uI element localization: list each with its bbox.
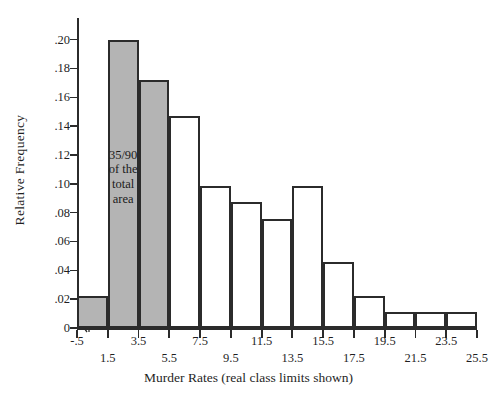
y-axis-title-text: Relative Frequency: [12, 115, 28, 226]
y-axis-tick: [70, 68, 77, 70]
x-axis-tick-label: 7.5: [192, 334, 208, 349]
y-axis-tick-label: .04: [54, 263, 70, 278]
y-axis-tick: [70, 39, 77, 41]
histogram-bar: [262, 219, 293, 328]
x-axis-title: Murder Rates (real class limits shown): [0, 370, 497, 386]
y-axis-tick: [70, 154, 77, 156]
histogram-bar: [446, 312, 477, 328]
y-axis-title: Relative Frequency: [8, 0, 32, 340]
histogram-bar: [139, 80, 170, 328]
y-axis-tick-label: .08: [54, 205, 70, 220]
histogram-bars: [77, 18, 477, 330]
x-axis-tick-label: 5.5: [161, 351, 177, 366]
x-axis-tick-label: 13.5: [281, 351, 303, 366]
y-axis-tick-label: .12: [54, 147, 70, 162]
y-axis-tick: [70, 97, 77, 99]
x-axis-tick-label: 19.5: [374, 334, 396, 349]
histogram-bar: [415, 312, 446, 328]
y-axis-tick: [70, 212, 77, 214]
histogram-bar: [231, 202, 262, 328]
histogram-bar: [200, 186, 231, 328]
x-axis-tick-label: 21.5: [405, 351, 427, 366]
histogram-bar: [385, 312, 416, 328]
y-axis-tick-label: .02: [54, 292, 70, 307]
histogram-bar: [77, 296, 108, 328]
y-axis-tick-label: .10: [54, 176, 70, 191]
x-axis-tick-labels: -.51.53.55.57.59.511.513.515.517.519.521…: [77, 330, 477, 374]
y-axis-tick-label: .20: [54, 32, 70, 47]
y-axis-tick: [70, 183, 77, 185]
x-axis-tick-label: 15.5: [312, 334, 334, 349]
histogram-bar: [169, 116, 200, 328]
histogram-bar: [354, 296, 385, 328]
x-axis-tick-label: 17.5: [343, 351, 365, 366]
y-axis-tick: [70, 270, 77, 272]
y-axis-tick: [70, 241, 77, 243]
y-axis-tick-label: .16: [54, 90, 70, 105]
y-axis-tick-label: .14: [54, 119, 70, 134]
histogram-bar: [108, 40, 139, 328]
x-axis-tick-label: -.5: [70, 334, 84, 349]
x-axis-tick-label: 9.5: [223, 351, 239, 366]
y-axis-tick-label: .06: [54, 234, 70, 249]
x-axis-tick-label: 3.5: [131, 334, 147, 349]
y-axis-tick-labels: 0.02.04.06.08.10.12.14.16.18.20: [30, 18, 70, 330]
y-axis-tick: [70, 327, 77, 329]
histogram-figure: Relative Frequency 0.02.04.06.08.10.12.1…: [0, 0, 497, 393]
y-axis-tick: [70, 125, 77, 127]
plot-area: 35/90of thetotalarea: [77, 18, 477, 330]
histogram-bar: [292, 186, 323, 328]
y-axis-tick-label: .18: [54, 61, 70, 76]
y-axis-tick: [70, 298, 77, 300]
x-axis-tick-label: 23.5: [435, 334, 457, 349]
histogram-bar: [323, 262, 354, 328]
x-axis-tick-label: 1.5: [100, 351, 116, 366]
x-axis-tick-label: 11.5: [251, 334, 272, 349]
x-axis-tick-label: 25.5: [466, 351, 488, 366]
